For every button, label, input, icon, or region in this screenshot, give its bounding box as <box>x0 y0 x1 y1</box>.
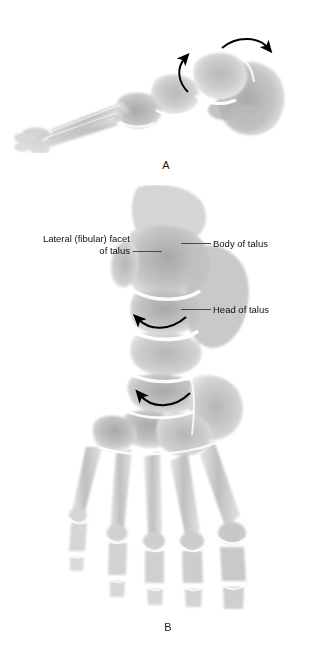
leader-line-head-of-talus <box>181 309 211 310</box>
lateral-foot-radiograph <box>10 18 304 153</box>
anatomical-figure: A <box>0 0 314 659</box>
panel-letter-a: A <box>156 159 176 171</box>
leader-line-body-of-talus <box>181 243 211 244</box>
lateral-bone-mass <box>14 53 284 153</box>
label-lateral-fibular-facet-of-talus: Lateral (fibular) facet of talus <box>14 233 130 256</box>
figure-caption-truncated <box>8 650 308 659</box>
label-body-of-talus: Body of talus <box>213 238 268 250</box>
panel-letter-b: B <box>158 621 178 633</box>
label-head-of-talus: Head of talus <box>213 304 269 316</box>
leader-line-lateral-facet <box>133 251 162 252</box>
